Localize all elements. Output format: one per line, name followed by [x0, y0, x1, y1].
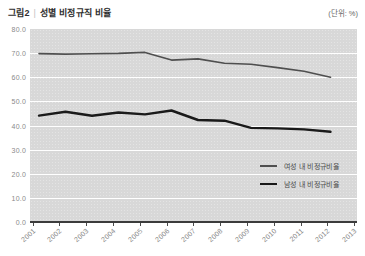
x-tick-label: 2013 — [334, 227, 358, 250]
x-tick — [301, 223, 302, 226]
x-tick — [33, 223, 34, 226]
y-tick-label: 0.0 — [0, 219, 26, 226]
x-tick-label: 2003 — [66, 227, 90, 250]
legend-label: 여성 내 비정규비율 — [284, 161, 339, 171]
x-tick — [59, 223, 60, 226]
x-tick-label: 2006 — [146, 227, 170, 250]
legend-line-swatch — [260, 183, 277, 185]
title-text: 성별 비정규직 비율 — [40, 8, 111, 18]
x-tick-label: 2007 — [173, 227, 197, 250]
x-tick — [274, 223, 275, 226]
plot-area: 여성 내 비정규비율남성 내 비정규비율 — [30, 29, 357, 222]
y-tick-label: 50.0 — [0, 98, 26, 105]
x-tick — [113, 223, 114, 226]
x-tick — [167, 223, 168, 226]
x-tick-label: 2005 — [119, 227, 143, 250]
title-separator: | — [34, 8, 37, 18]
x-tick-label: 2012 — [307, 227, 331, 250]
x-tick-label: 2009 — [227, 227, 251, 250]
x-tick — [327, 223, 328, 226]
y-tick-label: 80.0 — [0, 26, 26, 33]
x-tick — [354, 223, 355, 226]
x-tick — [220, 223, 221, 226]
legend-item-0: 여성 내 비정규비율 — [260, 160, 339, 172]
legend-line-swatch — [260, 165, 277, 167]
series-line-1 — [39, 111, 331, 132]
x-tick-label: 2011 — [280, 227, 304, 250]
chart-header: 그림2|성별 비정규직 비율 (단위: %) — [8, 6, 358, 20]
y-tick-label: 60.0 — [0, 74, 26, 81]
y-tick-label: 20.0 — [0, 170, 26, 177]
x-tick-label: 2004 — [93, 227, 117, 250]
x-tick — [247, 223, 248, 226]
x-tick-label: 2010 — [253, 227, 277, 250]
y-tick-label: 30.0 — [0, 146, 26, 153]
y-tick-label: 10.0 — [0, 194, 26, 201]
y-tick-label: 70.0 — [0, 50, 26, 57]
legend-item-1: 남성 내 비정규비율 — [260, 178, 339, 190]
x-tick — [140, 223, 141, 226]
x-tick — [86, 223, 87, 226]
x-tick-label: 2002 — [39, 227, 63, 250]
legend: 여성 내 비정규비율남성 내 비정규비율 — [260, 160, 339, 196]
chart-title: 그림2|성별 비정규직 비율 — [8, 6, 111, 19]
series-line-0 — [39, 52, 331, 77]
x-tick-label: 2001 — [12, 227, 36, 250]
figure: 그림2|성별 비정규직 비율 (단위: %) 여성 내 비정규비율남성 내 비정… — [0, 0, 365, 256]
unit-note: (단위: %) — [328, 7, 358, 18]
x-tick-label: 2008 — [200, 227, 224, 250]
legend-label: 남성 내 비정규비율 — [284, 179, 339, 189]
x-tick — [193, 223, 194, 226]
y-tick-label: 40.0 — [0, 122, 26, 129]
figure-number: 그림2 — [8, 8, 30, 18]
